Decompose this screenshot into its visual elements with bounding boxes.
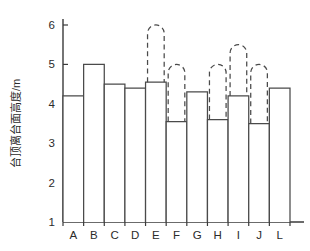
bar-J[interactable] <box>249 124 270 223</box>
bar-group-E <box>146 25 167 222</box>
x-axis-label-H: H <box>214 229 222 241</box>
x-axis-label-J: J <box>256 229 262 241</box>
y-tick-label-3: 3 <box>49 137 55 149</box>
bar-group-F <box>166 64 187 222</box>
y-tick-label-4: 4 <box>49 98 56 110</box>
arch-extension-H <box>209 64 226 119</box>
x-axis-label-L: L <box>276 229 283 241</box>
x-axis-label-I: I <box>237 229 240 241</box>
y-axis-title: 台顶离台面高度/m <box>9 79 22 168</box>
bar-I[interactable] <box>228 96 249 222</box>
bar-D[interactable] <box>125 88 146 222</box>
arch-extension-E <box>148 25 165 82</box>
y-axis-title-group: 台顶离台面高度/m <box>9 79 22 168</box>
bar-C[interactable] <box>104 84 125 222</box>
y-tick-label-1: 1 <box>49 216 55 228</box>
bar-group-I <box>228 45 249 222</box>
chart-container: 123456ABCDEFGHIJL台顶离台面高度/m <box>0 0 310 251</box>
bar-group-L <box>269 88 290 222</box>
bar-A[interactable] <box>63 96 84 222</box>
bar-L[interactable] <box>269 88 290 222</box>
y-tick-label-2: 2 <box>49 177 55 189</box>
arch-extension-F <box>168 64 185 121</box>
bar-E[interactable] <box>146 82 167 222</box>
x-axis-label-G: G <box>193 229 202 241</box>
x-axis-label-D: D <box>131 229 139 241</box>
bar-B[interactable] <box>84 64 105 222</box>
bar-chart: 123456ABCDEFGHIJL台顶离台面高度/m <box>0 0 310 251</box>
arch-extension-I <box>230 45 247 96</box>
bar-group-J <box>249 64 270 222</box>
x-axis-label-A: A <box>69 229 77 241</box>
bar-F[interactable] <box>166 122 187 222</box>
bar-group-H <box>207 64 228 222</box>
arch-extension-J <box>251 64 268 123</box>
bar-H[interactable] <box>207 120 228 222</box>
x-axis-label-B: B <box>90 229 98 241</box>
bar-group-D <box>125 88 146 222</box>
bar-group-G <box>187 92 208 222</box>
y-tick-label-5: 5 <box>49 58 55 70</box>
x-axis-label-E: E <box>152 229 160 241</box>
bar-group-C <box>104 84 125 222</box>
bar-G[interactable] <box>187 92 208 222</box>
y-tick-label-6: 6 <box>49 19 55 31</box>
bar-group-A <box>63 96 84 222</box>
x-axis-label-F: F <box>173 229 180 241</box>
bar-group-B <box>84 64 105 222</box>
x-axis-label-C: C <box>110 229 118 241</box>
